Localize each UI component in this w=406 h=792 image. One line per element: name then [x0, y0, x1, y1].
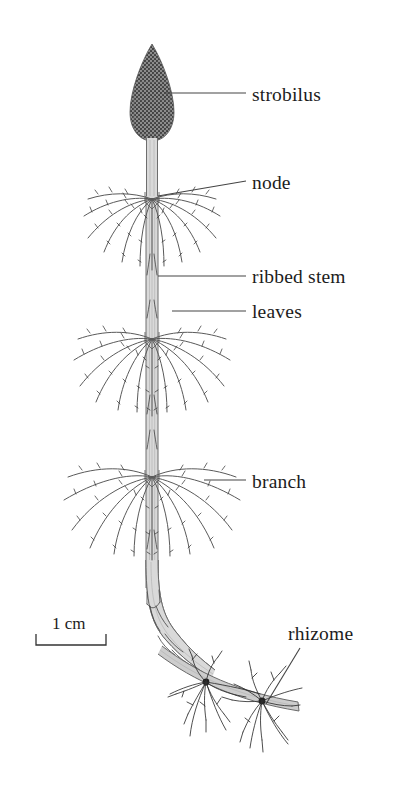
label-ribbed-stem: ribbed stem [252, 266, 346, 287]
label-strobilus: strobilus [252, 84, 321, 105]
label-node: node [252, 172, 291, 193]
scale-bar-label: 1 cm [52, 614, 86, 633]
label-rhizome: rhizome [288, 623, 353, 644]
label-leaves: leaves [252, 301, 302, 322]
label-branch: branch [252, 471, 306, 492]
horsetail-diagram: strobilus node ribbed stem leaves branch… [0, 0, 406, 792]
